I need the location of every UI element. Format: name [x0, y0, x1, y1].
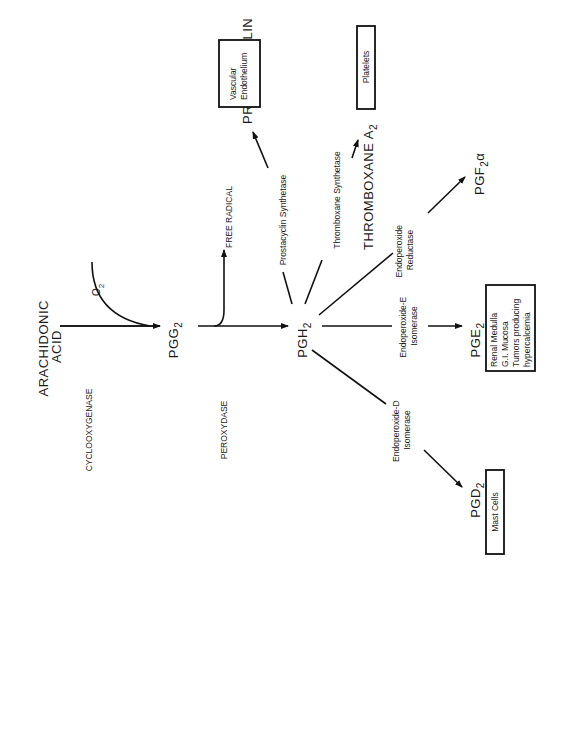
line-pgh2-prostacyclin-a: [283, 272, 292, 304]
arrow-to-pgd2: [424, 450, 462, 487]
prostacyclin-synthetase-label: Prostacyclin Synthetase: [278, 174, 288, 265]
cyclooxygenase-label: CYCLOOXYGENASE: [84, 388, 94, 471]
line-pgh2-reductase: [319, 253, 393, 315]
free-radical-label: FREE RADICAL: [224, 186, 234, 248]
line-pgh2-d-isomerase: [312, 350, 386, 404]
pgh2-label: PGH2: [295, 322, 313, 358]
svg-text:ACID: ACID: [49, 330, 64, 363]
arrow-to-thromboxane: [352, 140, 358, 158]
pathway-diagram: ARACHIDONIC ACID O2 CYCLOOXYGENASE PGG2 …: [0, 0, 567, 743]
pgd2-label: PGD2: [468, 482, 486, 518]
platelets-label: Platelets: [361, 51, 371, 84]
pge2-label: PGE2: [468, 322, 486, 357]
mast-cells-label: Mast Cells: [490, 492, 500, 532]
arrow-to-prostacyclin: [253, 132, 268, 168]
pgf2a-label: PGF2α: [472, 153, 490, 195]
arachidonic-acid-label: ARACHIDONIC ACID: [36, 300, 64, 397]
line-pgh2-thromboxane: [305, 260, 322, 304]
endoperoxide-d-isomerase-label: Endoperoxide-D Isomerase: [391, 398, 412, 462]
arrow-free-radical: [214, 250, 224, 326]
endoperoxide-e-isomerase-label: Endoperoxide-E Isomerase: [398, 294, 419, 357]
thromboxane-synthetase-label: Thromboxane Synthetase: [332, 151, 342, 249]
arrow-to-pgf2a: [428, 177, 465, 213]
pgg2-label: PGG2: [166, 322, 184, 358]
thromboxane-a2-label: THROMBOXANE A2: [361, 124, 379, 250]
peroxydase-label: PEROXYDASE: [219, 400, 229, 459]
endoperoxide-reductase-label: Endoperoxide Reductase: [394, 223, 415, 278]
